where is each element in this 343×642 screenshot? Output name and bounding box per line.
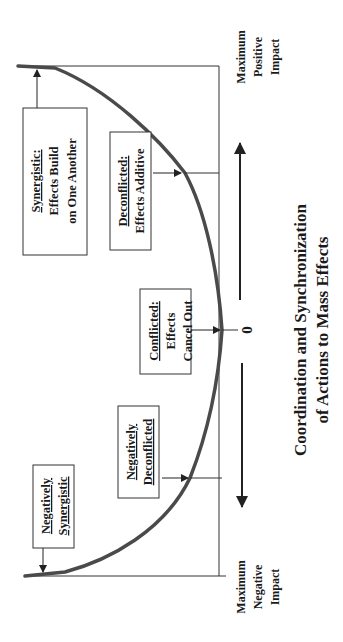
title-line-2: of Actions to Mass Effects (313, 236, 332, 423)
conflicted-line-2: Cancel Out (181, 300, 195, 362)
zero-label: 0 (239, 326, 255, 334)
positive-end-label: Maximum Positive Impact (234, 30, 282, 83)
deconflicted-heading: Deconflicted: (116, 156, 130, 227)
svg-text:Maximum: Maximum (234, 30, 248, 83)
deconflicted-line-1: Effects Additive (133, 148, 147, 234)
svg-text:Negative: Negative (251, 564, 265, 609)
neg-deconflicted-heading: Negatively (124, 423, 138, 480)
mass-effects-diagram: Synergistic: Effects Build on One Anothe… (0, 0, 343, 642)
diagram-title: Coordination and Synchronization of Acti… (291, 204, 332, 456)
svg-text:Impact: Impact (268, 39, 282, 76)
svg-text:0: 0 (239, 326, 255, 334)
neg-synergistic-heading: Negatively (39, 477, 53, 534)
synergistic-line-2: on One Another (65, 138, 79, 224)
neg-deconflicted-line-1: Deconflicted (141, 419, 155, 486)
neg-synergistic-line-1: Synergistic (56, 476, 70, 535)
title-line-1: Coordination and Synchronization (291, 204, 310, 456)
svg-text:Maximum: Maximum (234, 560, 248, 613)
synergistic-text: Synergistic: Effects Build on One Anothe… (29, 138, 79, 224)
negative-end-label: Maximum Negative Impact (234, 560, 282, 613)
svg-text:Positive: Positive (251, 36, 265, 77)
svg-text:Impact: Impact (268, 569, 282, 606)
conflicted-heading: Conflicted: (147, 301, 161, 361)
synergistic-line-1: Effects Build (47, 146, 61, 215)
synergistic-heading: Synergistic: (29, 149, 43, 212)
conflicted-line-1: Effects (164, 312, 178, 349)
